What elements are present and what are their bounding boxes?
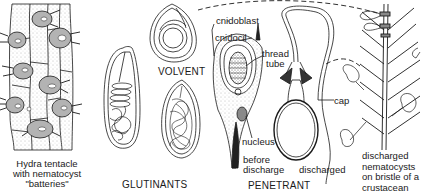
tube-label: tube [266,59,285,69]
glutinants-label: GLUTINANTS [122,180,187,190]
bristle-caption-line4: crustacean [362,183,419,194]
penetrant-label: PENETRANT [248,181,310,191]
discharged-label: discharged [299,165,345,175]
cap-label: cap [334,96,349,106]
cnidocil-label: cnidocil [215,33,247,43]
bristle-caption-line3: on bristle of a [362,172,419,183]
penetrant-discharged-drawing [274,6,334,184]
volvent-label: VOLVENT [158,67,205,77]
hydra-tentacle-drawing [0,4,82,150]
hydra-caption: Hydra tentacle with nematocyst "batterie… [6,159,88,189]
hydra-caption-line3: "batteries" [6,179,88,189]
bristle-caption-line1: discharged [362,151,419,162]
glutinant-large-drawing [104,47,140,149]
bristle-caption: discharged nematocysts on bristle of a c… [362,151,419,193]
nucleus-label: nucleus [242,137,275,147]
nematocyst-figure: Hydra tentacle with nematocyst "batterie… [0,0,426,195]
discharge-label: discharge [243,165,284,175]
glutinant-small-drawing [162,80,200,158]
volvent-drawing [150,4,196,62]
cnidoblast-label: cnidoblast [216,16,259,26]
